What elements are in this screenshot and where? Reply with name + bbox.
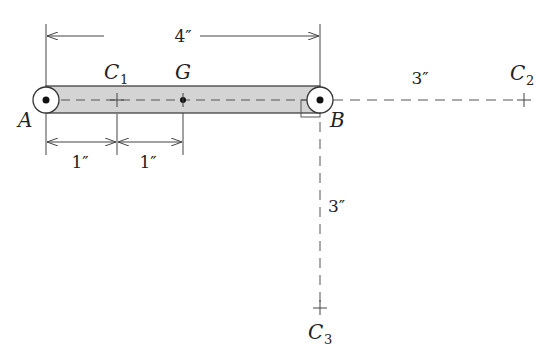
label-b: B xyxy=(329,108,345,132)
dimension-a-c1-label: 1″ xyxy=(71,152,88,172)
point-c3-marker xyxy=(313,300,327,315)
label-a: A xyxy=(16,108,32,132)
dimension-ab: 4″ xyxy=(47,26,319,46)
svg-text:C: C xyxy=(308,320,323,344)
dimension-ab-label: 4″ xyxy=(174,26,191,46)
dimension-c1-g: 1″ xyxy=(118,142,182,172)
pin-a xyxy=(33,87,59,113)
label-c2: C 2 xyxy=(510,61,534,88)
label-g: G xyxy=(175,60,191,84)
bar-diagram: 4″ A B G C 1 C 2 xyxy=(0,0,551,362)
dimension-a-c1: 1″ xyxy=(47,142,116,172)
svg-text:C: C xyxy=(104,60,119,84)
svg-text:1: 1 xyxy=(120,72,128,87)
svg-text:C: C xyxy=(510,61,525,85)
label-c3: C 3 xyxy=(308,320,332,347)
svg-text:3: 3 xyxy=(324,332,332,347)
dimension-b-c2-label: 3″ xyxy=(411,68,428,88)
svg-text:2: 2 xyxy=(526,73,534,88)
point-c2-marker xyxy=(517,93,531,107)
label-c1: C 1 xyxy=(104,60,128,87)
dimension-b-c3-label: 3″ xyxy=(328,196,345,216)
dimension-c1-g-label: 1″ xyxy=(139,152,156,172)
